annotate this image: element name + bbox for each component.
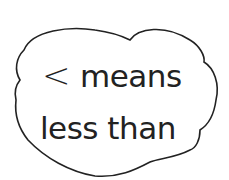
cloud-text-line-2: less than — [40, 110, 176, 146]
less-than-symbol: < — [42, 55, 70, 95]
means-text: means — [80, 58, 182, 94]
cloud-text-line-1: <means — [42, 55, 182, 95]
less-than-text: less than — [40, 110, 176, 146]
